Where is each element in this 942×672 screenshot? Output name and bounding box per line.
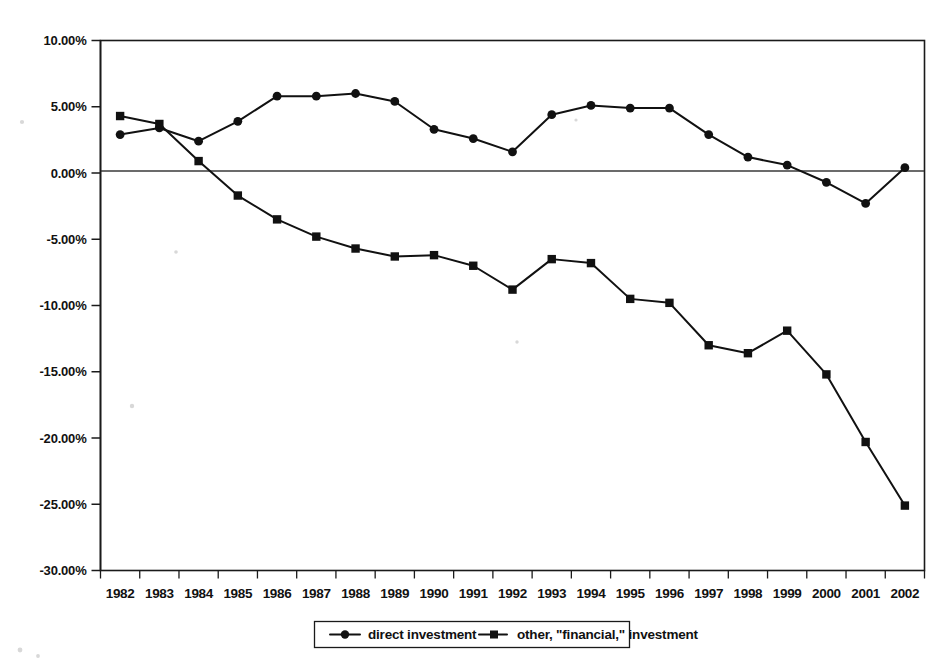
data-point-square (665, 299, 673, 307)
x-tick-label: 2001 (851, 586, 881, 601)
data-point-square (704, 341, 712, 349)
x-tick-label: 1997 (694, 586, 723, 601)
y-tick-label: -25.00% (39, 497, 87, 512)
data-point-square (861, 438, 869, 446)
y-tick-label: 10.00% (44, 33, 88, 48)
data-point-square (626, 295, 634, 303)
y-tick-label: -10.00% (39, 298, 87, 313)
x-tick-label: 1987 (302, 586, 331, 601)
data-point-circle (508, 147, 517, 156)
data-point-square (155, 120, 163, 128)
x-tick-label: 1995 (616, 586, 646, 601)
data-point-circle (665, 104, 674, 113)
data-point-circle (194, 137, 203, 146)
data-point-circle (273, 92, 282, 101)
data-point-circle (390, 97, 399, 106)
data-point-circle (626, 104, 635, 113)
data-point-circle (233, 117, 242, 126)
x-tick-label: 1998 (734, 586, 764, 601)
data-point-circle (900, 163, 909, 172)
y-tick-label: -20.00% (39, 431, 87, 446)
data-point-square (430, 251, 438, 259)
data-point-square (901, 501, 909, 509)
x-tick-label: 1990 (420, 586, 449, 601)
data-point-square (194, 157, 202, 165)
data-point-circle (312, 92, 321, 101)
data-point-circle (587, 101, 596, 110)
y-tick-label: 0.00% (51, 166, 88, 181)
x-tick-label: 1988 (341, 586, 371, 601)
x-tick-label: 1991 (459, 586, 489, 601)
data-point-circle (430, 125, 439, 134)
data-point-circle (744, 153, 753, 162)
data-point-square (116, 112, 124, 120)
data-point-square (783, 326, 791, 334)
y-tick-label: -15.00% (39, 364, 87, 379)
legend-marker-circle-icon (341, 630, 349, 638)
x-tick-label: 1983 (145, 586, 175, 601)
x-tick-label: 2000 (812, 586, 841, 601)
data-point-square (351, 244, 359, 252)
data-point-circle (469, 134, 478, 143)
y-tick-label: 5.00% (51, 99, 88, 114)
y-tick-label: -5.00% (47, 232, 88, 247)
data-point-square (508, 285, 516, 293)
y-tick-label: -30.00% (39, 563, 87, 578)
legend-marker-square-icon (490, 631, 498, 639)
data-point-square (548, 255, 556, 263)
data-point-circle (783, 161, 792, 170)
data-point-circle (861, 199, 870, 208)
x-tick-label: 1992 (498, 586, 527, 601)
data-point-square (234, 191, 242, 199)
x-tick-label: 1999 (773, 586, 802, 601)
data-point-square (273, 215, 281, 223)
x-tick-label: 1982 (106, 586, 135, 601)
data-point-square (312, 232, 320, 240)
investment-share-line-chart: 10.00%5.00%0.00%-5.00%-10.00%-15.00%-20.… (0, 0, 942, 672)
data-point-circle (116, 130, 125, 139)
data-point-circle (704, 130, 713, 139)
x-tick-label: 1986 (263, 586, 293, 601)
x-tick-label: 2002 (890, 586, 919, 601)
x-tick-label: 1993 (537, 586, 567, 601)
legend-label-other-financial-investment: other, "financial," investment (517, 627, 699, 642)
data-point-square (469, 262, 477, 270)
x-tick-label: 1996 (655, 586, 685, 601)
data-point-square (587, 259, 595, 267)
x-tick-label: 1989 (380, 586, 409, 601)
data-point-circle (822, 178, 831, 187)
data-point-square (744, 349, 752, 357)
x-tick-label: 1994 (577, 586, 607, 601)
data-point-circle (351, 89, 360, 98)
x-tick-label: 1985 (223, 586, 253, 601)
legend-label-direct-investment: direct investment (368, 627, 477, 642)
data-point-square (822, 370, 830, 378)
data-point-square (391, 252, 399, 260)
x-tick-label: 1984 (184, 586, 214, 601)
data-point-circle (547, 110, 556, 119)
